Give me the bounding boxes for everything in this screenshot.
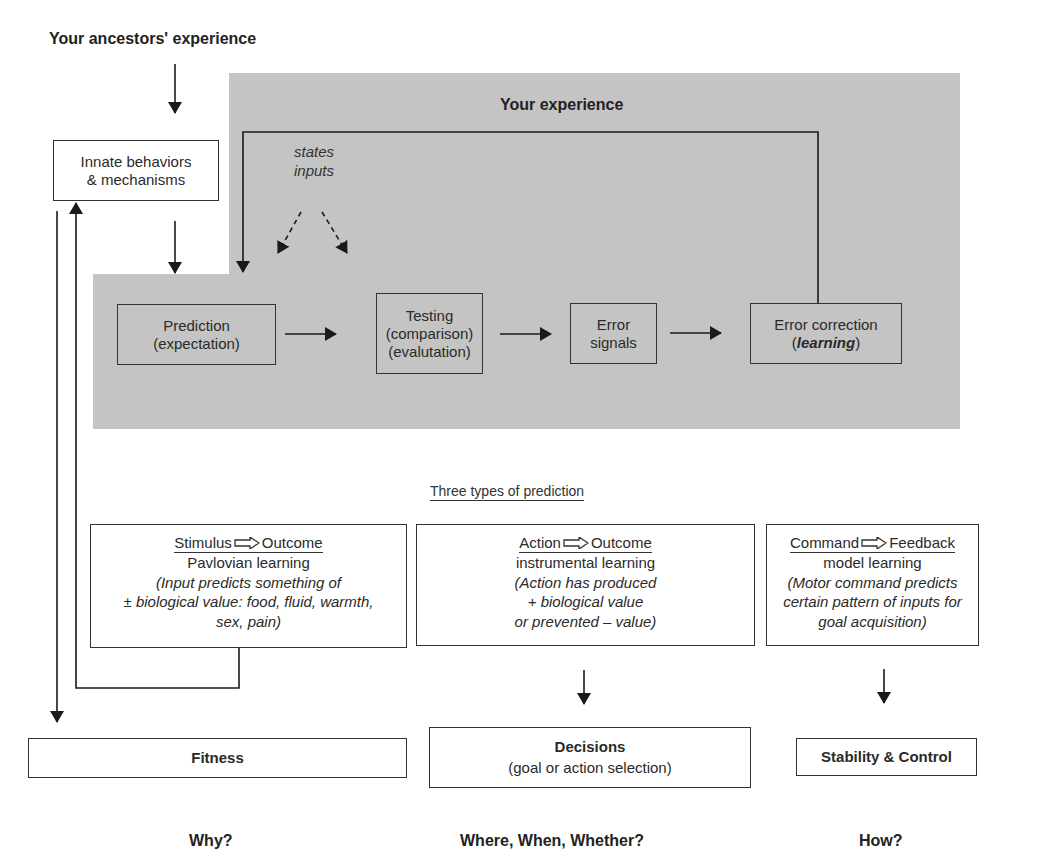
type-desc-line: ± biological value: food, fluid, warmth,: [123, 592, 373, 612]
stability-title: Stability & Control: [821, 748, 952, 766]
ancestors-experience-label: Your ancestors' experience: [49, 30, 256, 48]
type-desc-line: (Action has produced: [515, 573, 657, 593]
type-from: Command: [790, 534, 859, 551]
dashed-arrow-inputs-to-testing: [322, 212, 347, 253]
inputs-label: inputs: [284, 161, 344, 180]
testing-line3: (evalutation): [388, 343, 471, 361]
error-correction-line1: Error correction: [774, 316, 877, 334]
error-correction-line2: (learning): [792, 334, 860, 352]
action-outcome-heading: Action Outcome: [519, 534, 652, 553]
prediction-box: Prediction (expectation): [117, 304, 276, 365]
double-arrow-icon: [234, 537, 260, 549]
error-signals-line1: Error: [597, 316, 630, 334]
dashed-arrow-states-to-prediction: [278, 212, 301, 253]
innate-line1: Innate behaviors: [81, 153, 192, 171]
modulators-label: states inputs: [284, 142, 344, 180]
decisions-subtitle: (goal or action selection): [508, 759, 671, 777]
error-signals-box: Error signals: [570, 303, 657, 364]
question-why: Why?: [189, 832, 233, 850]
type-desc-line: sex, pain): [216, 612, 281, 632]
type-desc-line: (Motor command predicts: [787, 573, 957, 593]
type-to: Feedback: [889, 534, 955, 551]
prediction-type-model: Command Feedback model learning (Motor c…: [766, 524, 979, 646]
prediction-line1: Prediction: [163, 317, 230, 335]
stimulus-outcome-heading: Stimulus Outcome: [174, 534, 322, 553]
type-desc-line: certain pattern of inputs for: [783, 592, 961, 612]
type-kind: instrumental learning: [516, 553, 655, 573]
fitness-box: Fitness: [28, 738, 407, 778]
testing-line2: (comparison): [386, 325, 474, 343]
type-desc-line: (Input predicts something of: [156, 573, 341, 593]
paren-close: ): [855, 334, 860, 351]
command-feedback-heading: Command Feedback: [790, 534, 955, 553]
stability-control-box: Stability & Control: [796, 738, 977, 776]
decisions-title: Decisions: [555, 738, 626, 756]
type-kind: model learning: [823, 553, 921, 573]
double-arrow-icon: [861, 537, 887, 549]
type-desc-line: + biological value: [528, 592, 644, 612]
learning-emphasis: learning: [797, 334, 855, 351]
type-desc-line: or prevented – value): [515, 612, 657, 632]
type-kind: Pavlovian learning: [187, 553, 310, 573]
prediction-types-heading: Three types of prediction: [430, 483, 584, 501]
question-where-when-whether: Where, When, Whether?: [460, 832, 644, 850]
fitness-title: Fitness: [191, 749, 244, 767]
error-signals-line2: signals: [590, 334, 637, 352]
double-arrow-icon: [563, 537, 589, 549]
states-label: states: [284, 142, 344, 161]
prediction-type-pavlovian: Stimulus Outcome Pavlovian learning (Inp…: [90, 524, 407, 648]
innate-line2: & mechanisms: [87, 171, 185, 189]
testing-box: Testing (comparison) (evalutation): [376, 293, 483, 374]
type-to: Outcome: [591, 534, 652, 551]
innate-behaviors-box: Innate behaviors & mechanisms: [53, 140, 219, 201]
prediction-line2: (expectation): [153, 335, 240, 353]
testing-line1: Testing: [406, 307, 454, 325]
experience-region-title: Your experience: [500, 96, 623, 114]
type-desc-line: goal acquisition): [818, 612, 926, 632]
error-correction-box: Error correction (learning): [750, 303, 902, 364]
question-how: How?: [859, 832, 903, 850]
decisions-box: Decisions (goal or action selection): [429, 727, 751, 788]
type-from: Stimulus: [174, 534, 232, 551]
type-to: Outcome: [262, 534, 323, 551]
type-from: Action: [519, 534, 561, 551]
prediction-type-instrumental: Action Outcome instrumental learning (Ac…: [416, 524, 755, 646]
